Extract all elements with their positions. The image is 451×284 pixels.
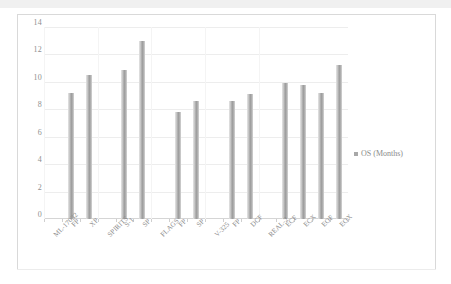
y-axis-tick-labels: 02468101214 xyxy=(20,23,42,223)
bar[interactable] xyxy=(139,41,145,219)
y-axis-tick-0: 0 xyxy=(38,211,42,219)
top-decorative-band xyxy=(0,0,451,8)
x-axis-category-labels: ML-17032FPXPSPIRITSS-1SPFLAGSFPSPV-325FP… xyxy=(44,221,364,269)
bar[interactable] xyxy=(336,65,342,219)
bar-slot xyxy=(259,27,277,219)
x-axis-label-v-325: V-325 xyxy=(213,220,231,238)
bar-slot xyxy=(169,27,187,219)
bar-slot xyxy=(133,27,151,219)
y-axis-tick-6: 6 xyxy=(38,129,42,137)
bar-slot xyxy=(62,27,80,219)
bar[interactable] xyxy=(247,94,253,219)
plot-wrapper: 02468101214 ML-17032FPXPSPIRITSS-1SPFLAG… xyxy=(18,15,437,271)
bar-slot xyxy=(241,27,259,219)
plot-area xyxy=(44,27,348,219)
bar[interactable] xyxy=(121,70,127,219)
y-axis-tick-8: 8 xyxy=(38,101,42,109)
legend-label-os-months: OS (Months) xyxy=(361,149,403,158)
bar[interactable] xyxy=(68,93,74,219)
x-axis-label-flags: FLAGS xyxy=(159,217,181,239)
bar-series-os-months xyxy=(44,27,348,219)
bar-slot xyxy=(151,27,169,219)
bar-slot xyxy=(330,27,348,219)
bar[interactable] xyxy=(282,83,288,219)
y-axis-tick-10: 10 xyxy=(34,74,42,82)
bar-slot xyxy=(276,27,294,219)
bottom-divider xyxy=(17,269,436,270)
bar[interactable] xyxy=(175,112,181,219)
chart-container: 02468101214 ML-17032FPXPSPIRITSS-1SPFLAG… xyxy=(17,14,436,270)
bar-slot xyxy=(205,27,223,219)
bar-slot xyxy=(223,27,241,219)
y-axis-tick-14: 14 xyxy=(34,19,42,27)
bar[interactable] xyxy=(318,93,324,219)
bar[interactable] xyxy=(229,101,235,219)
chart-legend: OS (Months) xyxy=(354,149,403,158)
bar-slot xyxy=(80,27,98,219)
bar-slot xyxy=(116,27,134,219)
bar-slot xyxy=(312,27,330,219)
bar-slot xyxy=(294,27,312,219)
y-axis-tick-4: 4 xyxy=(38,156,42,164)
y-axis-tick-12: 12 xyxy=(34,46,42,54)
bar-slot xyxy=(98,27,116,219)
square-marker-icon xyxy=(354,152,358,156)
bar[interactable] xyxy=(86,75,92,219)
bar-slot xyxy=(44,27,62,219)
bar[interactable] xyxy=(193,101,199,219)
bar-slot xyxy=(187,27,205,219)
y-axis-tick-2: 2 xyxy=(38,184,42,192)
bar[interactable] xyxy=(300,85,306,219)
